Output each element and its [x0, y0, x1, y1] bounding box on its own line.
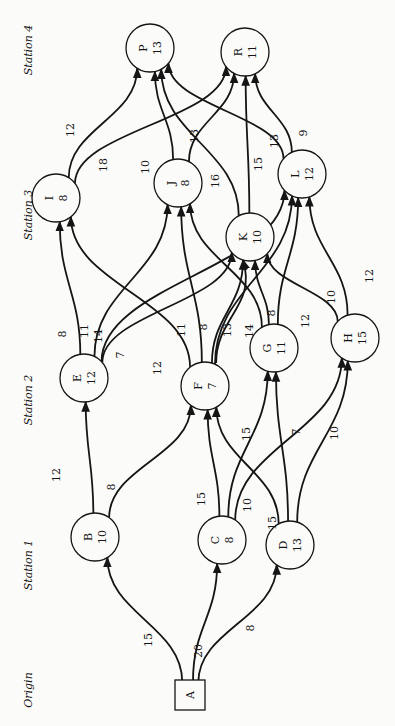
edge-weight-label: 8: [244, 625, 257, 632]
edge-weight-label: 7: [290, 429, 303, 436]
edge-weight-label: 15: [266, 516, 279, 530]
node-A: A: [175, 680, 205, 710]
node-value: 8: [57, 195, 70, 202]
edge-E-J: [94, 205, 167, 357]
edge-weight-label: 15: [240, 427, 253, 441]
node-E: E12: [60, 354, 108, 402]
station-label: Station 3: [22, 190, 35, 241]
node-label: H: [342, 333, 355, 343]
edge-weight-label: 15: [195, 492, 208, 506]
node-value: 13: [151, 41, 164, 55]
edge-L-P: [168, 63, 283, 158]
station-label: Station 2: [22, 375, 35, 426]
edge-A-B: [107, 558, 182, 683]
edge-F-J: [181, 207, 202, 362]
edge-weight-label: 20: [192, 644, 205, 658]
station-label: Station 4: [22, 25, 35, 76]
edge-C-G: [228, 371, 267, 517]
node-L: L12: [278, 150, 326, 198]
node-value: 15: [356, 331, 369, 345]
edge-weight-label: 13: [268, 134, 281, 148]
edge-weight-label: 13: [188, 129, 201, 143]
edge-weight-label: 9: [297, 130, 310, 137]
node-value: 12: [85, 371, 98, 385]
node-K: K10: [226, 213, 274, 261]
node-label: G: [261, 344, 274, 353]
edge-weight-label: 12: [64, 123, 77, 137]
edge-weight-label: 8: [105, 484, 118, 491]
node-value: 10: [96, 530, 109, 544]
edge-weight-label: 15: [142, 633, 155, 647]
edge-weight-label: 11: [78, 324, 91, 338]
edge-D-G: [276, 372, 288, 521]
node-label: P: [137, 44, 150, 52]
edge-F-I: [71, 217, 190, 367]
edge-A-C: [193, 564, 217, 681]
node-label: E: [71, 374, 84, 382]
edge-weight-label: 18: [97, 158, 110, 172]
node-value: 10: [251, 230, 264, 244]
edge-weight-label: 7: [114, 352, 127, 359]
edge-weight-label: 8: [197, 324, 210, 331]
edge-weight-label: 12: [50, 468, 63, 482]
edge-weight-label: 16: [209, 174, 222, 188]
node-label: B: [82, 533, 95, 541]
edge-E-K: [102, 253, 231, 363]
network-diagram: AB10C8D13E12F7G11H15I8J8K10L12P13R11 152…: [0, 0, 395, 726]
node-label: K: [237, 232, 250, 241]
edge-J-R: [189, 73, 234, 161]
node-label: C: [209, 536, 222, 544]
nodes-layer: AB10C8D13E12F7G11H15I8J8K10L12P13R11: [32, 24, 379, 710]
edge-weight-label: 10: [325, 290, 338, 304]
node-label: R: [232, 47, 245, 56]
edge-D-H: [297, 361, 348, 522]
node-label: A: [184, 690, 197, 700]
node-value: 11: [275, 341, 288, 355]
node-H: H15: [331, 314, 379, 362]
edge-weight-label: 14: [92, 329, 105, 343]
node-P: P13: [126, 24, 174, 72]
node-value: 12: [303, 167, 316, 181]
edge-weight-label: 12: [363, 269, 376, 283]
node-value: 11: [246, 45, 259, 59]
node-value: 8: [223, 537, 236, 544]
edge-weight-label: 15: [252, 157, 265, 171]
edge-C-F: [208, 410, 220, 516]
edge-B-F: [109, 405, 191, 517]
edge-weight-label: 12: [151, 361, 164, 375]
node-F: F7: [181, 362, 229, 410]
edge-weight-label: 12: [299, 314, 312, 328]
edge-weight-label: 10: [328, 426, 341, 440]
edge-G-L: [278, 198, 298, 325]
station-label: Origin: [22, 672, 35, 707]
diagram-svg: AB10C8D13E12F7G11H15I8J8K10L12P13R11 152…: [0, 0, 395, 726]
node-label: L: [289, 170, 302, 178]
edge-weight-label: 10: [241, 498, 254, 512]
edge-weight-label: 8: [265, 310, 278, 317]
edge-B-E: [86, 402, 94, 513]
node-R: R11: [221, 28, 269, 76]
edge-weight-label: 10: [139, 160, 152, 174]
station-label: Station 1: [22, 540, 35, 591]
node-B: B10: [71, 513, 119, 561]
node-G: G11: [250, 324, 298, 372]
edge-weight-label: 11: [175, 323, 188, 337]
node-label: I: [43, 196, 56, 200]
node-label: J: [165, 181, 178, 186]
node-value: 8: [179, 180, 192, 187]
node-C: C8: [198, 516, 246, 564]
stations-layer: OriginStation 1Station 2Station 3Station…: [22, 25, 35, 708]
edge-weight-label: 8: [56, 331, 69, 338]
edge-K-R: [246, 76, 250, 213]
edge-A-D: [198, 565, 276, 683]
edge-weight-label: 14: [243, 324, 256, 338]
node-J: J8: [154, 159, 202, 207]
edge-weight-label: 13: [221, 323, 234, 337]
node-I: I8: [32, 174, 80, 222]
node-label: D: [277, 540, 290, 549]
node-label: F: [192, 382, 205, 390]
node-value: 13: [291, 538, 304, 552]
node-value: 7: [206, 383, 219, 390]
